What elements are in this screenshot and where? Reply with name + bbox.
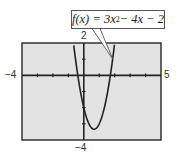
x-min-label: −4	[5, 70, 16, 80]
function-label-callout: f(x) = 3x2 − 4x − 2	[71, 10, 165, 29]
y-min-label: −4	[75, 143, 86, 153]
y-max-label: 2	[81, 31, 87, 41]
function-label-prefix: f(x) = 3x	[72, 12, 116, 27]
x-max-label: 5	[164, 70, 170, 80]
function-label-suffix: − 4x − 2	[120, 12, 164, 27]
graphing-calculator-figure: −4 5 2 −4 f(x) = 3x2 − 4x − 2	[0, 0, 181, 157]
calculator-screen	[22, 43, 161, 140]
